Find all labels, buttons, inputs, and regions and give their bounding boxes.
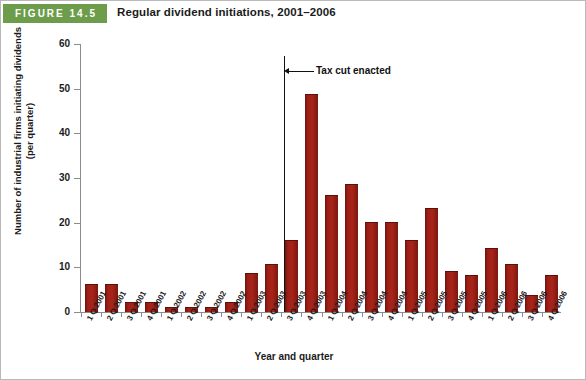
x-axis-tick — [301, 312, 302, 317]
chart-plot-area: Number of industrial firms initiating di… — [1, 27, 586, 380]
x-axis-tick — [221, 312, 222, 317]
x-axis-tick — [522, 312, 523, 317]
x-axis-tick — [342, 312, 343, 317]
tax-cut-event-line — [284, 56, 285, 312]
x-axis-tick — [482, 312, 483, 317]
annotation-label: Tax cut enacted — [316, 65, 391, 76]
x-axis-tick — [382, 312, 383, 317]
x-axis-tick — [362, 312, 363, 317]
y-axis-tick-label: 20 — [44, 217, 70, 228]
y-axis-tick-label: 60 — [44, 38, 70, 49]
x-axis-tick — [161, 312, 162, 317]
x-axis-tick — [141, 312, 142, 317]
bar — [305, 94, 318, 312]
y-axis-tick-label: 40 — [44, 127, 70, 138]
x-axis-tick — [241, 312, 242, 317]
x-axis-tick — [442, 312, 443, 317]
figure-header: FIGURE 14.5 Regular dividend initiations… — [1, 1, 586, 27]
x-axis-tick — [281, 312, 282, 317]
x-axis-tick — [462, 312, 463, 317]
figure-container: FIGURE 14.5 Regular dividend initiations… — [0, 0, 586, 380]
y-axis-tick-label: 10 — [44, 261, 70, 272]
figure-title: Regular dividend initiations, 2001–2006 — [117, 6, 336, 18]
x-axis-label: Year and quarter — [1, 351, 586, 362]
x-axis-tick — [261, 312, 262, 317]
x-axis-tick — [81, 312, 82, 317]
y-axis-tick-label: 30 — [44, 172, 70, 183]
x-axis-tick — [121, 312, 122, 317]
x-axis-tick — [502, 312, 503, 317]
x-axis-tick — [101, 312, 102, 317]
x-axis-tick — [322, 312, 323, 317]
y-axis-tick-label: 50 — [44, 83, 70, 94]
x-axis-tick — [542, 312, 543, 317]
x-axis-tick — [402, 312, 403, 317]
y-axis-tick-label: 0 — [44, 306, 70, 317]
x-axis-tick — [181, 312, 182, 317]
x-axis-tick — [422, 312, 423, 317]
bar-series — [80, 44, 561, 312]
figure-number-badge: FIGURE 14.5 — [3, 4, 107, 23]
y-axis-tick — [74, 312, 81, 313]
x-axis-tick — [201, 312, 202, 317]
annotation-leader-line — [286, 71, 314, 72]
y-axis-label: Number of industrial firms initiating di… — [12, 24, 36, 238]
